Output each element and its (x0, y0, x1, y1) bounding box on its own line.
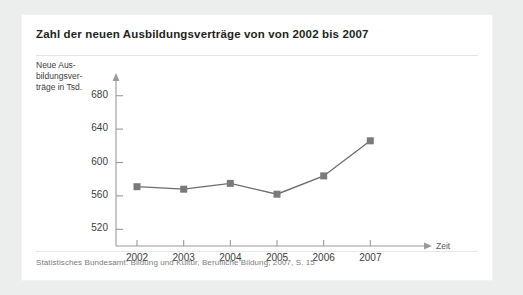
x-axis-label: Zeit (436, 241, 450, 251)
x-axis-ticks (137, 240, 370, 246)
y-axis-tick-label: 600 (74, 156, 108, 167)
screenshot-root: Zahl der neuen Ausbildungsverträge von v… (0, 0, 523, 295)
y-axis-ticks (116, 96, 123, 230)
series-line-neue-ausbildungsvertraege (137, 141, 370, 194)
data-point-marker (274, 191, 281, 198)
y-axis-tick-label: 560 (74, 189, 108, 200)
x-axis-arrow-icon (424, 243, 432, 250)
data-point-marker (367, 137, 374, 144)
data-point-marker (320, 172, 327, 179)
data-point-marker (180, 186, 187, 193)
y-axis-tick-label: 680 (74, 89, 108, 100)
line-chart-svg (22, 15, 492, 280)
y-axis-tick-label: 640 (74, 122, 108, 133)
y-axis-tick-label: 520 (74, 222, 108, 233)
x-axis-tick-label: 2007 (350, 252, 390, 263)
chart-card: Zahl der neuen Ausbildungsverträge von v… (22, 15, 492, 280)
chart-axes (113, 73, 432, 249)
footer-divider (36, 251, 478, 252)
source-note: Statistisches Bundesamt: Bildung und Kul… (36, 258, 315, 267)
data-point-marker (134, 183, 141, 190)
y-axis-arrow-icon (113, 73, 120, 81)
chart-plot-area (22, 15, 492, 280)
data-point-marker (227, 180, 234, 187)
